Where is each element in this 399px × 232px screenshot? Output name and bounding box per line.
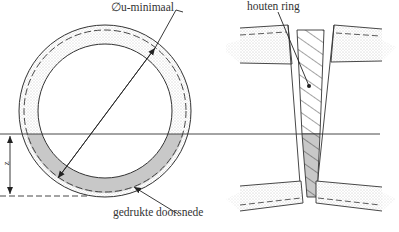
upper-left-pipe	[240, 25, 292, 64]
z-dimension-label: z	[2, 162, 11, 166]
diameter-arrow	[58, 48, 155, 178]
compressed-section-label: gedrukte doorsnede	[113, 207, 203, 219]
lower-right-pipe	[316, 181, 382, 211]
pipe-wall	[19, 25, 191, 197]
pipe-inner-edge	[38, 44, 172, 178]
upper-right-pipe	[331, 25, 382, 62]
joint-detail	[226, 25, 396, 211]
wooden-ring	[297, 30, 324, 134]
wood-ring-label: houten ring	[247, 1, 300, 13]
diameter-label: ∅u-minimaal	[111, 2, 174, 14]
diagram-svg	[0, 0, 399, 232]
diagram: ∅u-minimaal houten ring gedrukte doorsne…	[0, 0, 399, 232]
pipe-cross-section	[0, 25, 220, 232]
